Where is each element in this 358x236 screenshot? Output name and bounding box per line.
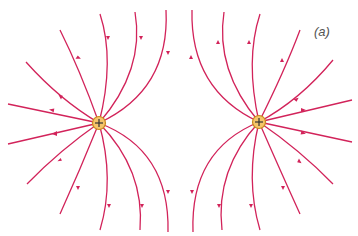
- left-charge: [93, 117, 106, 130]
- field-lines-svg: [0, 0, 358, 236]
- field-diagram: (a): [0, 0, 358, 236]
- right-charge: [253, 116, 266, 129]
- arrowheads: [49, 36, 307, 208]
- left-charge-field-lines: [8, 10, 168, 232]
- right-charge-field-lines: [192, 10, 352, 232]
- panel-label: (a): [314, 24, 330, 39]
